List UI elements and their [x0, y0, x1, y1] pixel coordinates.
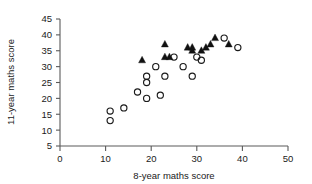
scatter-plot-canvas: 51015202530354045 01020304050 8-year mat… — [0, 0, 312, 184]
data-point-open-circle — [189, 73, 195, 79]
y-tick-label: 40 — [41, 29, 52, 40]
data-point-open-circle — [144, 95, 150, 101]
data-point-open-circle — [162, 73, 168, 79]
data-point-filled-triangle — [212, 34, 219, 41]
y-tick-label: 20 — [41, 93, 52, 104]
y-axis-title: 11-year maths score — [5, 39, 16, 125]
data-point-filled-triangle — [139, 56, 146, 63]
x-tick-label: 40 — [237, 153, 248, 164]
data-point-open-circle — [198, 57, 204, 63]
data-point-open-circle — [134, 89, 140, 95]
data-series-filled-triangles — [139, 34, 233, 63]
data-point-filled-triangle — [161, 40, 168, 47]
data-point-open-circle — [144, 79, 150, 85]
y-tick-label: 30 — [41, 61, 52, 72]
data-point-open-circle — [235, 44, 241, 50]
y-tick-label: 45 — [41, 13, 52, 24]
data-point-open-circle — [221, 35, 227, 41]
x-axis-ticks: 01020304050 — [57, 146, 293, 164]
y-tick-label: 35 — [41, 45, 52, 56]
data-point-filled-triangle — [225, 40, 232, 47]
data-point-filled-triangle — [207, 40, 214, 47]
data-point-open-circle — [180, 64, 186, 70]
data-point-open-circle — [153, 64, 159, 70]
y-tick-label: 15 — [41, 109, 52, 120]
y-tick-label: 10 — [41, 125, 52, 136]
x-tick-label: 30 — [192, 153, 203, 164]
data-point-open-circle — [107, 118, 113, 124]
x-axis-title: 8-year maths score — [133, 170, 214, 181]
y-tick-label: 5 — [47, 140, 52, 151]
data-point-open-circle — [121, 105, 127, 111]
y-axis-ticks: 51015202530354045 — [41, 13, 60, 151]
data-series-open-circles — [107, 35, 241, 124]
data-point-open-circle — [107, 108, 113, 114]
data-point-open-circle — [144, 73, 150, 79]
x-tick-label: 50 — [283, 153, 294, 164]
x-tick-label: 20 — [146, 153, 157, 164]
scatter-plot-figure: 51015202530354045 01020304050 8-year mat… — [0, 0, 312, 184]
data-point-open-circle — [157, 92, 163, 98]
y-tick-label: 25 — [41, 77, 52, 88]
x-tick-label: 10 — [100, 153, 111, 164]
x-tick-label: 0 — [57, 153, 62, 164]
